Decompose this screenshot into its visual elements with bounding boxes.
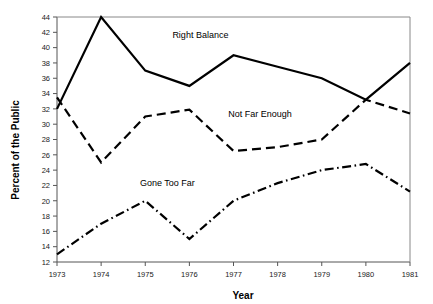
- x-tick-label: 1977: [225, 270, 242, 279]
- plot-frame: [57, 17, 410, 262]
- series-annotations: Right BalanceNot Far EnoughGone Too Far: [140, 30, 292, 188]
- x-tick-label: 1973: [49, 270, 66, 279]
- x-axis-title: Year: [232, 290, 253, 301]
- series-line-right-balance: [57, 17, 410, 109]
- line-chart: 1214161820222426283032343638404244 19731…: [0, 0, 433, 304]
- x-axis: 197319741975197619771978197919801981: [49, 262, 419, 279]
- y-tick-label: 36: [42, 74, 50, 83]
- y-tick-label: 18: [42, 212, 50, 221]
- series-label-right-balance: Right Balance: [172, 30, 228, 40]
- y-tick-label: 20: [42, 197, 50, 206]
- chart-container: 1214161820222426283032343638404244 19731…: [0, 0, 433, 304]
- x-tick-label: 1980: [358, 270, 375, 279]
- x-tick-label: 1981: [402, 270, 419, 279]
- y-tick-label: 38: [42, 59, 50, 68]
- y-tick-label: 12: [42, 258, 50, 267]
- y-tick-label: 44: [42, 13, 50, 22]
- x-tick-label: 1978: [269, 270, 286, 279]
- series-label-not-far-enough: Not Far Enough: [228, 109, 292, 119]
- y-tick-label: 40: [42, 43, 50, 52]
- y-tick-label: 26: [42, 151, 50, 160]
- y-axis-title: Percent of the Public: [10, 100, 21, 200]
- x-tick-label: 1975: [137, 270, 154, 279]
- x-tick-label: 1976: [181, 270, 198, 279]
- y-tick-label: 32: [42, 105, 50, 114]
- data-series-group: [57, 17, 410, 254]
- y-tick-label: 24: [42, 166, 50, 175]
- x-tick-label: 1979: [313, 270, 330, 279]
- y-tick-label: 22: [42, 181, 50, 190]
- series-label-gone-too-far: Gone Too Far: [140, 178, 195, 188]
- y-axis: 1214161820222426283032343638404244: [42, 13, 57, 267]
- x-tick-label: 1974: [93, 270, 110, 279]
- y-tick-label: 42: [42, 28, 50, 37]
- series-line-gone-too-far: [57, 164, 410, 254]
- y-tick-label: 34: [42, 89, 50, 98]
- y-tick-label: 14: [42, 242, 50, 251]
- y-tick-label: 28: [42, 135, 50, 144]
- y-tick-label: 16: [42, 227, 50, 236]
- y-tick-label: 30: [42, 120, 50, 129]
- series-line-not-far-enough: [57, 97, 410, 162]
